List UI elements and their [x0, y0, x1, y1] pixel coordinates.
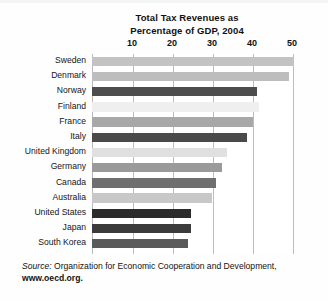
- bar-row: Germany: [0, 160, 328, 175]
- x-tick-40: 40: [247, 38, 257, 48]
- bar-label-germany: Germany: [0, 161, 86, 172]
- bar-sweden: [92, 57, 294, 67]
- bar-row: Finland: [0, 100, 328, 115]
- bar-row: Canada: [0, 176, 328, 191]
- chart-title-line-2: Percentage of GDP, 2004: [92, 25, 282, 38]
- bar-label-sweden: Sweden: [0, 55, 86, 66]
- bar-germany: [92, 163, 222, 173]
- x-tick-30: 30: [207, 38, 217, 48]
- x-axis-tick-labels: 1020304050: [0, 38, 328, 52]
- bar-japan: [92, 224, 191, 234]
- source-body: Organization for Economic Cooperation an…: [52, 261, 277, 271]
- bar-row: South Korea: [0, 236, 328, 251]
- bar-label-canada: Canada: [0, 177, 86, 188]
- bar-rows: SwedenDenmarkNorwayFinlandFranceItalyUni…: [0, 54, 328, 254]
- bar-label-australia: Australia: [0, 192, 86, 203]
- x-tick-10: 10: [127, 38, 137, 48]
- chart-title-line-1: Total Tax Revenues as: [92, 12, 282, 25]
- bar-row: Denmark: [0, 69, 328, 84]
- source-prefix: Source:: [22, 261, 52, 271]
- bar-label-norway: Norway: [0, 85, 86, 96]
- bar-row: United States: [0, 206, 328, 221]
- figure-top-edge: [0, 0, 328, 3]
- bar-norway: [92, 87, 257, 97]
- x-tick-20: 20: [167, 38, 177, 48]
- bar-finland: [92, 102, 259, 112]
- bar-row: France: [0, 115, 328, 130]
- chart-title: Total Tax Revenues as Percentage of GDP,…: [92, 12, 282, 37]
- bar-label-united-kingdom: United Kingdom: [0, 146, 86, 157]
- bar-france: [92, 117, 253, 127]
- chart-figure: Total Tax Revenues as Percentage of GDP,…: [0, 0, 328, 301]
- bar-label-united-states: United States: [0, 207, 86, 218]
- x-tick-50: 50: [287, 38, 297, 48]
- bar-united-states: [92, 209, 191, 219]
- bar-row: Italy: [0, 130, 328, 145]
- bar-row: Sweden: [0, 54, 328, 69]
- bar-label-finland: Finland: [0, 101, 86, 112]
- bar-row: United Kingdom: [0, 145, 328, 160]
- bar-italy: [92, 133, 247, 143]
- bar-denmark: [92, 72, 289, 82]
- bar-label-italy: Italy: [0, 131, 86, 142]
- source-line-1: Source: Organization for Economic Cooper…: [22, 261, 312, 273]
- bar-label-denmark: Denmark: [0, 70, 86, 81]
- source-url: www.oecd.org.: [22, 273, 312, 285]
- bar-label-japan: Japan: [0, 222, 86, 233]
- bar-row: Australia: [0, 191, 328, 206]
- source-note: Source: Organization for Economic Cooper…: [22, 261, 312, 284]
- bar-south-korea: [92, 239, 188, 249]
- bar-label-france: France: [0, 116, 86, 127]
- bar-australia: [92, 193, 212, 203]
- bar-label-south-korea: South Korea: [0, 237, 86, 248]
- bar-row: Norway: [0, 84, 328, 99]
- bar-row: Japan: [0, 221, 328, 236]
- bar-canada: [92, 178, 216, 188]
- bar-united-kingdom: [92, 148, 227, 158]
